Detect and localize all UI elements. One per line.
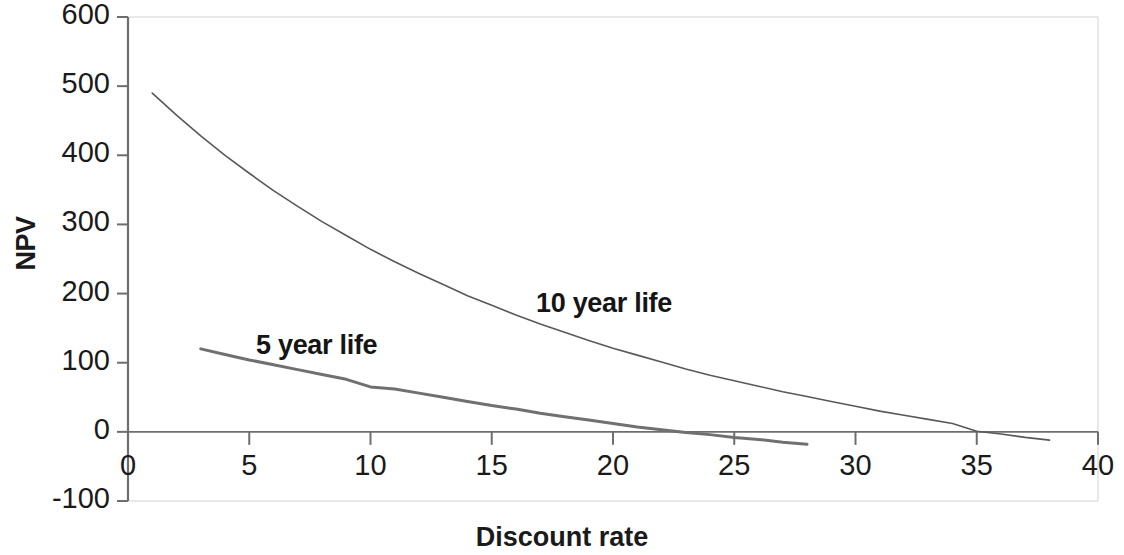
npv-chart: NPV Discount rate 5 year life 10 year li… bbox=[0, 0, 1124, 555]
y-tick-label: 500 bbox=[0, 67, 110, 100]
y-tick-label: 200 bbox=[0, 275, 110, 308]
series-label-5-year: 5 year life bbox=[256, 330, 377, 361]
y-tick-label: 400 bbox=[0, 136, 110, 169]
y-tick-label: 0 bbox=[0, 413, 110, 446]
tick-marks bbox=[117, 17, 1098, 501]
series-lines bbox=[152, 93, 1049, 444]
x-tick-label: 15 bbox=[447, 449, 537, 482]
x-tick-label: 30 bbox=[811, 449, 901, 482]
y-tick-label: 100 bbox=[0, 344, 110, 377]
x-tick-label: 5 bbox=[204, 449, 294, 482]
x-tick-label: 40 bbox=[1053, 449, 1124, 482]
y-tick-label: 600 bbox=[0, 0, 110, 31]
x-tick-label: 25 bbox=[689, 449, 779, 482]
series-line-5-year-life bbox=[201, 349, 807, 444]
x-tick-label: 0 bbox=[83, 449, 173, 482]
x-axis-title: Discount rate bbox=[0, 522, 1124, 553]
series-label-10-year: 10 year life bbox=[536, 288, 672, 319]
y-tick-label: -100 bbox=[0, 482, 110, 515]
x-tick-label: 35 bbox=[932, 449, 1022, 482]
series-line-10-year-life bbox=[152, 93, 1049, 440]
plot-frame bbox=[128, 17, 1098, 501]
axis-lines bbox=[128, 17, 1098, 501]
x-tick-label: 20 bbox=[568, 449, 658, 482]
x-tick-label: 10 bbox=[326, 449, 416, 482]
y-tick-label: 300 bbox=[0, 205, 110, 238]
